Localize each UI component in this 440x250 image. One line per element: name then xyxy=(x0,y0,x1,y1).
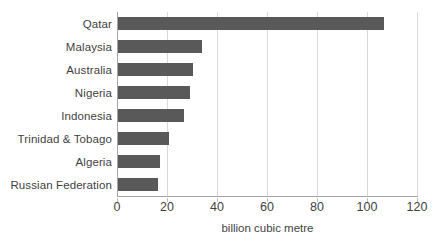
table-row: Nigeria xyxy=(0,81,440,104)
category-axis-line xyxy=(117,196,418,197)
bar-australia xyxy=(118,63,193,76)
bar-cell-malaysia xyxy=(117,35,418,58)
bar-russian-federation xyxy=(118,178,158,191)
bar-nigeria xyxy=(118,86,190,99)
category-label-australia: Australia xyxy=(0,64,117,76)
x-tick-label-40: 40 xyxy=(210,200,224,214)
bar-cell-qatar xyxy=(117,12,418,35)
bar-trinidad-and-tobago xyxy=(118,132,169,145)
category-label-qatar: Qatar xyxy=(0,18,117,30)
table-row: Trinidad & Tobago xyxy=(0,127,440,150)
table-row: Russian Federation xyxy=(0,173,440,196)
category-label-russian-federation: Russian Federation xyxy=(0,179,117,191)
category-label-malaysia: Malaysia xyxy=(0,41,117,53)
bar-qatar xyxy=(118,17,384,30)
bar-rows: Qatar Malaysia Australia Nigeria Indones xyxy=(0,12,440,196)
x-tick-label-60: 60 xyxy=(260,200,274,214)
bar-cell-trinidad-and-tobago xyxy=(117,127,418,150)
bar-indonesia xyxy=(118,109,184,122)
bar-cell-indonesia xyxy=(117,104,418,127)
bar-malaysia xyxy=(118,40,202,53)
table-row: Qatar xyxy=(0,12,440,35)
category-label-trinidad-and-tobago: Trinidad & Tobago xyxy=(0,133,117,145)
category-label-indonesia: Indonesia xyxy=(0,110,117,122)
bar-chart: Qatar Malaysia Australia Nigeria Indones xyxy=(0,0,440,250)
bar-cell-australia xyxy=(117,58,418,81)
bar-algeria xyxy=(118,155,160,168)
table-row: Malaysia xyxy=(0,35,440,58)
table-row: Australia xyxy=(0,58,440,81)
bar-cell-algeria xyxy=(117,150,418,173)
x-tick-label-20: 20 xyxy=(160,200,174,214)
x-tick-label-120: 120 xyxy=(407,200,428,214)
x-axis-title: billion cubic metre xyxy=(117,222,418,235)
category-label-algeria: Algeria xyxy=(0,156,117,168)
x-tick-label-80: 80 xyxy=(310,200,324,214)
bar-cell-russian-federation xyxy=(117,173,418,196)
x-axis-ticks: 0 20 40 60 80 100 120 xyxy=(0,198,440,218)
table-row: Indonesia xyxy=(0,104,440,127)
x-tick-label-0: 0 xyxy=(114,200,121,214)
category-label-nigeria: Nigeria xyxy=(0,87,117,99)
table-row: Algeria xyxy=(0,150,440,173)
x-tick-label-100: 100 xyxy=(357,200,378,214)
bar-cell-nigeria xyxy=(117,81,418,104)
